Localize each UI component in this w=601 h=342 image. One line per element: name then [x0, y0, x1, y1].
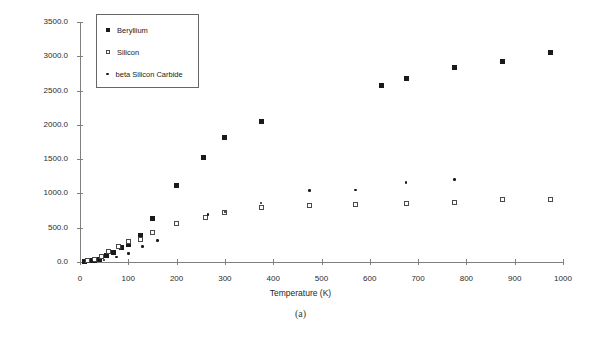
data-point — [548, 197, 553, 202]
data-point — [138, 237, 143, 242]
data-point — [452, 65, 457, 70]
data-point — [222, 135, 227, 140]
x-tick — [225, 259, 226, 265]
x-tick — [563, 259, 564, 265]
data-point — [150, 230, 155, 235]
x-axis-title: Temperature (K) — [0, 288, 601, 298]
x-tick-label: 300 — [210, 275, 240, 283]
y-tick — [77, 56, 83, 57]
legend-item[interactable]: Silicon — [106, 46, 139, 58]
y-tick — [77, 125, 83, 126]
data-point — [111, 250, 116, 255]
data-point — [453, 178, 456, 181]
figure-panel: 0.0500.01000.01500.02000.02500.03000.035… — [0, 0, 601, 342]
data-point — [548, 50, 553, 55]
legend: BerylliumSiliconbeta Silicon Carbide — [96, 14, 199, 88]
y-tick-label: 3500.0 — [22, 18, 68, 26]
y-tick-label: 1000.0 — [22, 189, 68, 197]
legend-marker-filled-dot-icon — [106, 73, 109, 76]
data-point — [127, 252, 130, 255]
y-tick-label: 1500.0 — [22, 155, 68, 163]
x-tick-label: 500 — [307, 275, 337, 283]
legend-item[interactable]: Beryllium — [106, 24, 148, 36]
data-point — [452, 200, 457, 205]
y-tick — [77, 228, 83, 229]
x-tick-label: 200 — [162, 275, 192, 283]
legend-label: beta Silicon Carbide — [116, 70, 183, 79]
y-tick-label: 3000.0 — [22, 52, 68, 60]
x-tick-label: 100 — [113, 275, 143, 283]
data-point — [174, 183, 179, 188]
y-tick-label: 0.0 — [22, 258, 68, 266]
data-point — [379, 83, 384, 88]
y-axis-line — [80, 22, 81, 263]
x-tick — [322, 259, 323, 265]
legend-marker-open-square-icon — [106, 50, 110, 54]
x-tick — [80, 259, 81, 265]
data-point — [259, 205, 264, 210]
data-point — [85, 258, 90, 263]
data-point — [259, 119, 264, 124]
x-tick-label: 800 — [451, 275, 481, 283]
y-tick — [77, 159, 83, 160]
x-tick — [370, 259, 371, 265]
x-tick-label: 600 — [355, 275, 385, 283]
y-tick — [77, 193, 83, 194]
legend-marker-filled-square-icon — [106, 28, 110, 32]
data-point — [201, 155, 206, 160]
data-point — [404, 76, 409, 81]
y-tick — [77, 91, 83, 92]
data-point — [126, 239, 131, 244]
data-point — [307, 203, 312, 208]
y-tick-label: 2500.0 — [22, 87, 68, 95]
y-tick-label: 500.0 — [22, 224, 68, 232]
legend-label: Beryllium — [117, 26, 148, 35]
data-point — [150, 216, 155, 221]
data-point — [354, 189, 357, 192]
x-tick-label: 0 — [65, 275, 95, 283]
data-point — [500, 197, 505, 202]
data-point — [141, 245, 144, 248]
data-point — [353, 202, 358, 207]
x-tick — [273, 259, 274, 265]
data-point — [116, 244, 121, 249]
y-tick — [77, 22, 83, 23]
y-tick-label: 2000.0 — [22, 121, 68, 129]
data-point — [308, 189, 311, 192]
x-tick — [515, 259, 516, 265]
legend-label: Silicon — [117, 48, 139, 57]
x-tick — [177, 259, 178, 265]
data-point — [174, 221, 179, 226]
x-tick-label: 900 — [500, 275, 530, 283]
data-point — [500, 59, 505, 64]
x-tick — [466, 259, 467, 265]
data-point — [404, 201, 409, 206]
x-tick — [418, 259, 419, 265]
x-tick-label: 400 — [258, 275, 288, 283]
data-point — [156, 239, 159, 242]
x-tick-label: 700 — [403, 275, 433, 283]
figure-caption: (a) — [0, 308, 601, 319]
data-point — [106, 249, 111, 254]
legend-item[interactable]: beta Silicon Carbide — [106, 68, 183, 80]
x-tick — [128, 259, 129, 265]
x-tick-label: 1000 — [548, 275, 578, 283]
